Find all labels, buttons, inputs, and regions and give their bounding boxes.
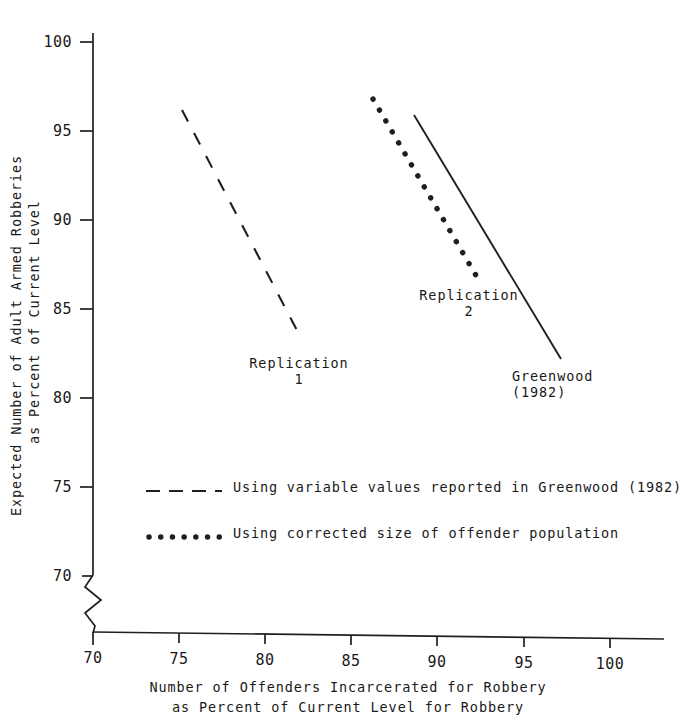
annotation-greenwood-1982: Greenwood (1982) — [512, 368, 593, 400]
legend-label-dashed: Using variable values reported in Greenw… — [233, 479, 682, 495]
legend-label-dotted: Using corrected size of offender populat… — [233, 525, 619, 541]
y-axis-break-zigzag — [85, 575, 101, 633]
series-replication-1-dashed-line — [182, 110, 301, 338]
annotation-replication-2-line-1: Replication — [410, 287, 528, 303]
y-axis-title-line-1: Expected Number of Adult Armed Robberies — [8, 155, 24, 516]
x-axis-title-line-2: as Percent of Current Level for Robbery — [0, 699, 696, 715]
annotation-replication-1: Replication 1 — [240, 355, 358, 387]
figure-container: 100 95 90 85 80 75 70 70 75 80 85 90 95 … — [0, 0, 696, 721]
x-tick-label-85: 85 — [328, 652, 374, 670]
legend-swatch-dashed — [145, 484, 223, 498]
y-tick-label-95: 95 — [28, 122, 72, 140]
x-axis-title-line-1: Number of Offenders Incarcerated for Rob… — [0, 679, 696, 695]
x-tick-label-100: 100 — [587, 655, 633, 673]
y-tick-label-100: 100 — [28, 33, 72, 51]
series-greenwood-1982-solid-line — [414, 115, 561, 359]
x-tick-label-80: 80 — [242, 651, 288, 669]
annotation-greenwood-1982-line-2: (1982) — [512, 384, 593, 400]
x-tick-label-75: 75 — [156, 650, 202, 668]
annotation-replication-2-line-2: 2 — [410, 303, 528, 319]
annotation-replication-1-line-1: Replication — [240, 355, 358, 371]
annotation-greenwood-1982-line-1: Greenwood — [512, 368, 593, 384]
series-replication-2-dotted-line — [373, 99, 481, 284]
y-tick-marks — [80, 42, 93, 576]
legend-swatch-dotted — [146, 530, 224, 544]
y-tick-label-70: 70 — [28, 567, 72, 585]
annotation-replication-2: Replication 2 — [410, 287, 528, 319]
x-tick-label-70: 70 — [70, 649, 116, 667]
x-tick-label-90: 90 — [414, 653, 460, 671]
annotation-replication-1-line-2: 1 — [240, 371, 358, 387]
y-axis-title-line-2: as Percent of Current Level — [26, 200, 42, 444]
y-tick-label-75: 75 — [28, 478, 72, 496]
x-tick-label-95: 95 — [501, 654, 547, 672]
